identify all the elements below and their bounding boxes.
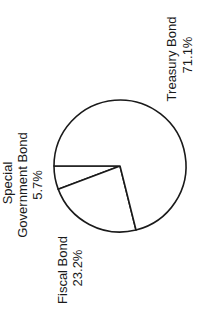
label-fiscal-bond: Fiscal Bond 23.2% — [55, 236, 85, 304]
special-value: 5.7% — [30, 170, 45, 200]
label-treasury-bond: Treasury Bond 71.1% — [164, 17, 195, 102]
pie — [54, 100, 186, 232]
special-name-line2: Government Bond — [15, 132, 30, 238]
treasury-value: 71.1% — [180, 36, 195, 73]
pie-chart: Treasury Bond 71.1% Special Government B… — [0, 0, 199, 331]
fiscal-value: 23.2% — [70, 249, 85, 286]
treasury-name: Treasury Bond — [164, 17, 179, 102]
label-special-government-bond: Special Government Bond 5.7% — [0, 132, 45, 238]
special-name-line1: Special — [0, 162, 15, 205]
fiscal-name: Fiscal Bond — [55, 236, 70, 304]
